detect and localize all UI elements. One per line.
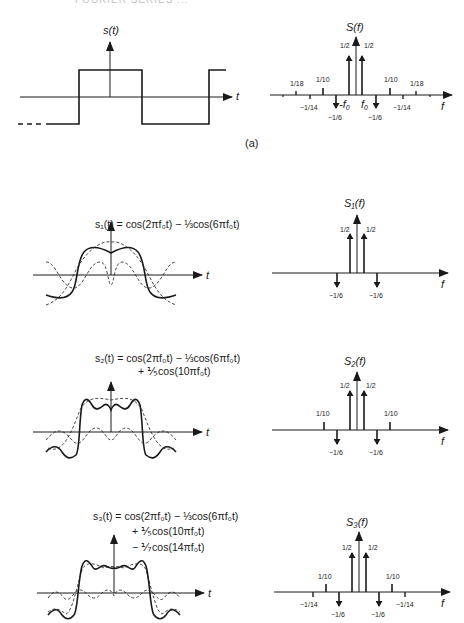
svg-text:t: t bbox=[206, 269, 210, 281]
svg-text:−1/6: −1/6 bbox=[329, 449, 343, 456]
svg-text:S₃(f): S₃(f) bbox=[346, 516, 368, 528]
s2-equation: s₂(t) = cos(2πf₀t) − ⅓cos(6πf₀t) bbox=[95, 352, 240, 364]
svg-text:1/10: 1/10 bbox=[316, 410, 330, 417]
svg-text:1/10: 1/10 bbox=[318, 573, 332, 580]
svg-text:S₁(f): S₁(f) bbox=[344, 197, 366, 209]
svg-text:1/2: 1/2 bbox=[366, 382, 376, 389]
svg-text:−1/6: −1/6 bbox=[331, 611, 345, 618]
s3-equation: s₃(t) = cos(2πf₀t) − ⅓cos(6πf₀t) bbox=[93, 510, 238, 522]
svg-text:1/2: 1/2 bbox=[368, 544, 378, 551]
svg-text:1/2: 1/2 bbox=[364, 42, 374, 49]
svg-text:−1/6: −1/6 bbox=[329, 292, 343, 299]
svg-text:−1/14: −1/14 bbox=[300, 104, 318, 111]
svg-text:−1/6: −1/6 bbox=[371, 611, 385, 618]
s1-equation: s₁(t) = cos(2πf₀t) − ⅓cos(6πf₀t) bbox=[95, 218, 240, 230]
spectrum-s2: S₂(f) f 1/2 1/2 1/10 1/10 −1/6 −1/6 bbox=[272, 355, 448, 456]
svg-text:1/2: 1/2 bbox=[342, 544, 352, 551]
svg-text:+ ⅕cos(10πf₀t): + ⅕cos(10πf₀t) bbox=[132, 525, 205, 537]
svg-text:1/2: 1/2 bbox=[340, 226, 350, 233]
svg-text:−1/14: −1/14 bbox=[300, 601, 318, 608]
s2-time-plot: s₂(t) = cos(2πf₀t) − ⅓cos(6πf₀t) + ⅕cos(… bbox=[33, 352, 240, 458]
s1-time-plot: s₁(t) = cos(2πf₀t) − ⅓cos(6πf₀t) t bbox=[33, 218, 240, 305]
svg-text:1/10: 1/10 bbox=[386, 573, 400, 580]
svg-text:1/2: 1/2 bbox=[340, 382, 350, 389]
svg-text:−1/14: −1/14 bbox=[393, 104, 411, 111]
svg-text:f0: f0 bbox=[361, 98, 368, 111]
svg-text:1/2: 1/2 bbox=[366, 226, 376, 233]
svg-text:1/2: 1/2 bbox=[340, 42, 350, 49]
spectrum-s3: S₃(f) f 1/2 1/2 1/10 1/10 −1/14 −1/14 −1… bbox=[274, 516, 450, 618]
svg-text:t: t bbox=[206, 426, 210, 438]
svg-text:−1/6: −1/6 bbox=[369, 292, 383, 299]
svg-text:−1/14: −1/14 bbox=[396, 601, 414, 608]
square-wave-plot: s(t) t bbox=[18, 24, 240, 124]
svg-text:+ ⅕cos(10πf₀t): + ⅕cos(10πf₀t) bbox=[138, 365, 211, 377]
S-f-label: S(f) bbox=[346, 21, 364, 33]
svg-text:−1/6: −1/6 bbox=[369, 449, 383, 456]
fourier-figure: s(t) t S(f) f 1/2 1/2 1/10 1/10 1/18 1/1… bbox=[0, 0, 464, 623]
s3-time-plot: s₃(t) = cos(2πf₀t) − ⅓cos(6πf₀t) + ⅕cos(… bbox=[37, 510, 238, 619]
caption-a: (a) bbox=[245, 137, 258, 149]
svg-text:f: f bbox=[441, 278, 445, 290]
svg-text:−1/6: −1/6 bbox=[328, 114, 342, 121]
svg-text:-f0: -f0 bbox=[339, 98, 350, 111]
f-label: f bbox=[441, 100, 445, 112]
svg-text:t: t bbox=[208, 587, 212, 599]
svg-text:1/18: 1/18 bbox=[410, 80, 424, 87]
svg-text:f: f bbox=[441, 435, 445, 447]
svg-text:−1/6: −1/6 bbox=[368, 114, 382, 121]
svg-text:− ⅐cos(14πf₀t): − ⅐cos(14πf₀t) bbox=[132, 541, 205, 553]
svg-text:S₂(f): S₂(f) bbox=[344, 355, 366, 367]
svg-text:f: f bbox=[441, 597, 445, 609]
svg-text:1/10: 1/10 bbox=[384, 410, 398, 417]
spectrum-s: S(f) f 1/2 1/2 1/10 1/10 1/18 1/18 −1/14… bbox=[245, 21, 452, 149]
s-t-label: s(t) bbox=[103, 24, 119, 36]
svg-text:1/10: 1/10 bbox=[316, 76, 330, 83]
spectrum-s1: S₁(f) f 1/2 1/2 −1/6 −1/6 bbox=[272, 197, 448, 299]
svg-text:1/18: 1/18 bbox=[290, 80, 304, 87]
t-label: t bbox=[236, 90, 240, 102]
svg-text:1/10: 1/10 bbox=[384, 76, 398, 83]
